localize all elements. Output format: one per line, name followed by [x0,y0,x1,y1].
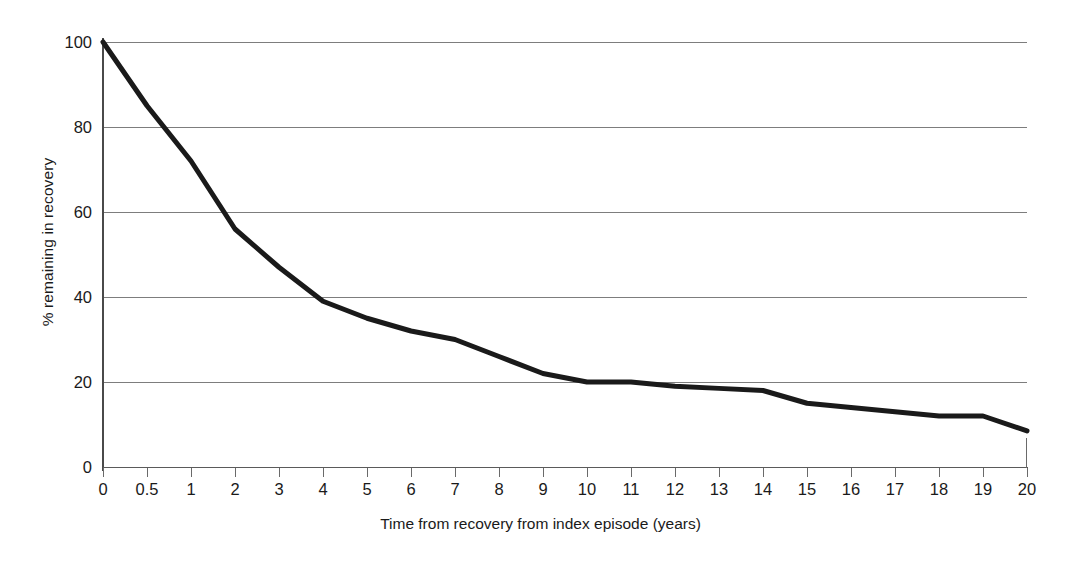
x-tick-mark [147,468,148,477]
x-axis-title: Time from recovery from index episode (y… [0,515,1081,533]
x-tick-mark [939,468,940,477]
x-tick-mark [235,468,236,477]
plot-area [103,42,1027,467]
x-tick-mark [191,468,192,477]
y-tick-label: 80 [50,119,92,136]
x-tick-mark [807,468,808,477]
x-tick-mark [323,468,324,477]
x-tick-mark [367,468,368,477]
gridline [103,127,1027,128]
x-tick-mark [499,468,500,477]
gridline [103,297,1027,298]
x-tick-label: 20 [997,480,1057,498]
x-tick-mark [983,468,984,477]
x-tick-mark [675,468,676,477]
x-tick-mark [587,468,588,477]
y-tick-label: 100 [50,34,92,51]
x-tick-mark [763,468,764,477]
x-tick-mark [103,468,104,477]
x-tick-mark [719,468,720,477]
y-tick-label: 0 [50,459,92,476]
gridline [103,42,1027,43]
x-tick-mark [455,468,456,477]
gridline [103,212,1027,213]
y-tick-label: 40 [50,289,92,306]
x-tick-mark [411,468,412,477]
line-chart: % remaining in recovery 020406080100 00.… [0,0,1081,573]
y-tick-label: 20 [50,374,92,391]
gridline [103,382,1027,383]
x-tick-mark [851,468,852,477]
x-tick-mark [543,468,544,477]
x-axis-right-cap [1026,438,1027,468]
x-tick-mark [1027,468,1028,477]
x-tick-mark [631,468,632,477]
x-axis-line [103,467,1028,468]
x-tick-mark [279,468,280,477]
y-axis-line [102,38,104,471]
x-tick-mark [895,468,896,477]
y-tick-label: 60 [50,204,92,221]
